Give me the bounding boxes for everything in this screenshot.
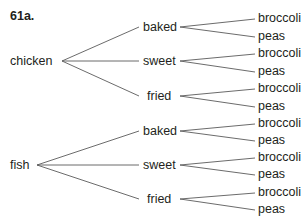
branch-line [180,96,255,107]
side-node-peas: peas [258,64,285,78]
method-node-fried: fried [147,192,171,206]
side-node-broccoli: broccoli [258,150,301,164]
side-node-broccoli: broccoli [258,185,301,199]
branch-line [180,89,255,96]
branch-line [180,165,255,175]
branch-line [37,165,139,199]
side-node-peas: peas [258,167,285,181]
branch-line [180,193,255,199]
method-node-baked: baked [143,20,177,34]
branch-line [62,61,139,96]
method-node-sweet: sweet [143,158,176,172]
branch-line [62,27,139,61]
branch-line [37,131,139,165]
branch-line [180,131,255,141]
side-node-broccoli: broccoli [258,46,301,60]
side-node-peas: peas [258,29,285,43]
branch-line [180,158,255,165]
side-node-peas: peas [258,133,285,147]
root-node-fish: fish [10,158,29,172]
branch-line [180,54,255,61]
branch-line [180,124,255,131]
method-node-fried: fried [147,89,171,103]
root-node-chicken: chicken [10,54,52,68]
method-node-sweet: sweet [143,54,176,68]
side-node-broccoli: broccoli [258,116,301,130]
branch-line [180,27,255,37]
side-node-broccoli: broccoli [258,11,301,25]
side-node-peas: peas [258,99,285,113]
branch-line [180,61,255,72]
branch-line [180,199,255,210]
side-node-broccoli: broccoli [258,81,301,95]
side-node-peas: peas [258,202,285,216]
method-node-baked: baked [143,124,177,138]
branch-line [180,19,255,27]
